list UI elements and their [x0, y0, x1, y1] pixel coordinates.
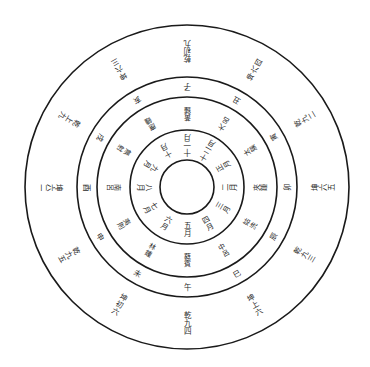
label-text: 正月 [214, 158, 233, 173]
hexagram-lines-label: 乾上九 [56, 110, 82, 130]
label-text: 夷則 [115, 216, 133, 230]
earthly-branches-label: 子 [183, 82, 191, 91]
label-text: 林鍾 [143, 241, 157, 259]
label-text: 坤上六 [245, 291, 265, 317]
label-text: 寅 [267, 131, 280, 143]
label-text: 子 [183, 82, 191, 91]
hexagram-lines-label: 坤六四 [244, 56, 264, 82]
earthly-branches-label: 寅 [267, 131, 280, 143]
label-text: 坤六三 [109, 57, 129, 83]
pitch-pipes-label: 應鍾 [143, 115, 157, 133]
earthly-branches-label: 未 [132, 267, 144, 280]
ring-labels: 十一月十二月正月二月三月四月五月六月七月八月九月十月黃鍾大呂太簇夾鍾姑洗中呂蕤賓… [39, 39, 336, 336]
label-text: 丑 [231, 94, 242, 106]
pitch-pipes-label: 大呂 [216, 115, 230, 133]
label-text: 坤六四 [244, 56, 264, 82]
hexagram-lines-label: 坤上六 [245, 291, 265, 317]
hexagram-lines-label: 乾九三 [292, 244, 318, 264]
label-text: 巳 [232, 268, 243, 280]
label-text: 乾九二 [291, 109, 317, 129]
hexagram-lines-label: 坤六五 [310, 183, 336, 191]
earthly-branches-label: 辰 [268, 231, 280, 242]
months-label: 六月 [159, 214, 175, 233]
earthly-branches-label: 申 [95, 231, 107, 242]
label-text: 二月 [221, 183, 238, 191]
earthly-branches-label: 酉 [82, 184, 91, 192]
months-label: 四月 [201, 214, 215, 232]
label-text: 八月 [136, 184, 153, 192]
label-text: 十一月 [183, 133, 191, 159]
label-text: 大呂 [216, 115, 230, 133]
label-text: 無射 [115, 143, 133, 157]
label-text: 亥 [131, 95, 143, 108]
label-text: 乾初九 [183, 39, 191, 65]
concentric-rings [25, 25, 349, 349]
twelve-month-correspondence-diagram: 十一月十二月正月二月三月四月五月六月七月八月九月十月黃鍾大呂太簇夾鍾姑洗中呂蕤賓… [0, 0, 370, 367]
label-text: 午 [184, 282, 192, 292]
hexagram-lines-label: 乾初九 [183, 39, 191, 65]
label-text: 姑洗 [241, 216, 259, 230]
pitch-pipes-label: 南呂 [106, 184, 122, 191]
hexagram-lines-label: 乾九四 [184, 310, 192, 336]
months-label: 七月 [141, 201, 160, 216]
label-text: 乾九五 [57, 245, 83, 265]
pitch-pipes-label: 姑洗 [241, 216, 259, 230]
label-text: 九月 [141, 159, 160, 174]
label-text: 蕤賓 [184, 252, 191, 268]
outer-circle [25, 25, 349, 349]
label-text: 五月 [184, 221, 192, 238]
months-layer: 十一月十二月正月二月三月四月五月六月七月八月九月十月 [136, 133, 237, 238]
pitch-ring [97, 97, 277, 277]
label-text: 申 [95, 231, 107, 242]
label-text: 坤六二 [39, 184, 65, 192]
hexagram-lines-label: 坤六三 [109, 57, 129, 83]
label-text: 坤六五 [310, 183, 336, 191]
label-text: 乾上九 [56, 110, 82, 130]
earthly-branches-label: 戌 [94, 132, 107, 144]
pitch-pipes-label: 蕤賓 [184, 252, 191, 268]
months-label: 十月 [158, 141, 174, 160]
label-text: 南呂 [106, 184, 122, 191]
label-text: 乾九三 [292, 244, 318, 264]
label-text: 六月 [159, 214, 175, 233]
months-label: 十一月 [183, 133, 191, 159]
pitch-pipes-label: 夷則 [115, 216, 133, 230]
inner-circle [160, 160, 214, 214]
label-text: 辰 [268, 231, 280, 242]
hexagram-lines-label: 乾九五 [57, 245, 83, 265]
label-text: 坤初六 [110, 292, 130, 318]
earthly-branches-label: 卯 [283, 184, 292, 191]
months-label: 九月 [141, 159, 160, 174]
hexagram-lines-label: 乾九二 [291, 109, 317, 129]
label-text: 卯 [283, 184, 292, 191]
label-text: 夾鍾 [253, 184, 268, 191]
earthly-branches-label: 巳 [232, 268, 243, 280]
label-text: 十二月 [197, 138, 217, 164]
label-text: 乾九四 [184, 310, 192, 336]
label-text: 十月 [158, 141, 174, 160]
pitch-pipes-label: 夾鍾 [253, 184, 268, 191]
label-text: 戌 [94, 132, 107, 144]
hexagram-lines-label: 坤初六 [110, 292, 130, 318]
hexagram-lines-label: 坤六二 [39, 184, 65, 192]
earthly-branches-label: 亥 [131, 95, 143, 108]
pitch-pipes-label: 黃鍾 [184, 106, 191, 122]
label-text: 應鍾 [143, 115, 157, 133]
months-label: 八月 [136, 184, 153, 192]
label-text: 太簇 [241, 143, 259, 157]
label-text: 黃鍾 [184, 106, 191, 122]
pitch-pipes-label: 中呂 [216, 241, 230, 259]
months-label: 正月 [214, 158, 233, 173]
label-text: 三月 [214, 201, 232, 215]
earthly-branches-label: 午 [184, 282, 192, 292]
label-text: 中呂 [216, 241, 230, 259]
pitch-pipes-label: 無射 [115, 143, 133, 157]
months-label: 十二月 [197, 138, 217, 164]
pitch-pipes-label: 太簇 [241, 143, 259, 157]
label-text: 未 [132, 267, 144, 280]
label-text: 四月 [201, 214, 215, 232]
months-label: 三月 [214, 201, 232, 215]
earthly-branches-label: 丑 [231, 94, 242, 106]
months-label: 二月 [221, 183, 238, 191]
label-text: 七月 [141, 201, 160, 216]
